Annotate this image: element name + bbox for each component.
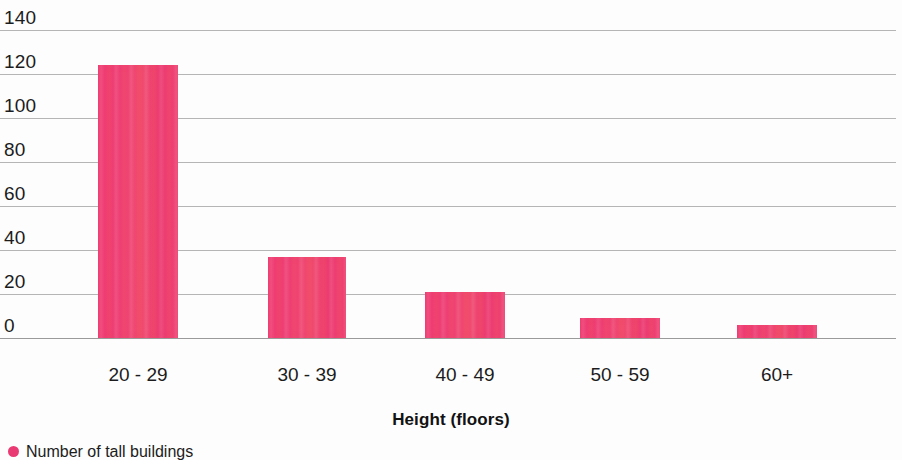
x-axis-title: Height (floors) [0,410,902,430]
bar-50-59 [580,318,660,338]
y-tick-label-20: 20 [4,272,26,291]
y-tick-label-60: 60 [4,184,26,203]
legend: Number of tall buildings [8,443,193,460]
x-tick-label-60plus: 60+ [717,364,837,386]
circle-marker-icon [8,446,19,457]
y-tick-label-100: 100 [4,96,36,115]
gridline-0 [0,338,896,339]
bar-chart: 140 120 100 80 60 40 20 0 20 - 29 30 - 3… [0,0,902,460]
x-tick-label-40-49: 40 - 49 [405,364,525,386]
x-tick-label-20-29: 20 - 29 [78,364,198,386]
bar-60plus [737,325,817,338]
y-tick-label-120: 120 [4,52,36,71]
x-tick-label-50-59: 50 - 59 [560,364,680,386]
bars-layer [0,30,896,338]
y-tick-label-80: 80 [4,140,26,159]
y-tick-label-140: 140 [4,8,36,27]
y-tick-label-0: 0 [4,316,15,335]
bar-20-29 [98,65,178,338]
bar-30-39 [268,257,346,338]
bar-40-49 [425,292,505,338]
legend-label-number-of-tall-buildings: Number of tall buildings [26,443,193,460]
x-tick-label-30-39: 30 - 39 [247,364,367,386]
y-tick-label-40: 40 [4,228,26,247]
